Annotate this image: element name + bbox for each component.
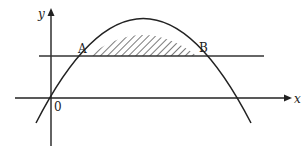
diagram: y x 0 A B [0,0,307,152]
y-axis-label: y [37,7,45,21]
point-a-label: A [77,42,87,56]
x-axis-label: x [294,92,301,106]
point-b-label: B [199,41,208,55]
origin-label: 0 [54,100,62,114]
shaded-region [89,35,197,56]
parabola-curve [36,19,251,124]
